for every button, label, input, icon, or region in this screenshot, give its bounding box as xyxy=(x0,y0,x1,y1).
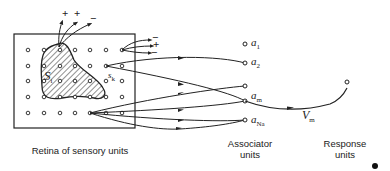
sensory-unit-label: sk xyxy=(108,70,115,83)
associator-label-a2: a2 xyxy=(251,55,260,70)
response-unit xyxy=(345,80,349,84)
retina-caption: Retina of sensory units xyxy=(20,145,140,156)
associator-label-am: am xyxy=(251,89,262,104)
associator-caption-line1: Associator xyxy=(215,138,285,149)
sign-top-3: − xyxy=(90,12,96,24)
sign-top-1: + xyxy=(62,7,68,19)
bullet-dot xyxy=(372,163,378,169)
associator-label-aNa: aNa xyxy=(251,113,265,128)
response-caption-line1: Response xyxy=(310,138,380,149)
sign-right-3: − xyxy=(151,46,157,58)
response-caption: Response units xyxy=(310,138,380,160)
associator-units xyxy=(243,42,247,122)
associator-caption-line2: units xyxy=(215,149,285,160)
response-caption-line2: units xyxy=(310,149,380,160)
unit-output-arrows xyxy=(122,40,152,53)
associator-caption: Associator units xyxy=(215,138,285,160)
stimulus-label: Si xyxy=(44,68,52,85)
connection-arrowheads xyxy=(176,56,184,130)
weight-label: Vm xyxy=(302,108,315,124)
associator-label-a1: a1 xyxy=(251,36,260,51)
sensory-to-associator-connections xyxy=(90,57,245,129)
sign-top-2: + xyxy=(74,7,80,19)
